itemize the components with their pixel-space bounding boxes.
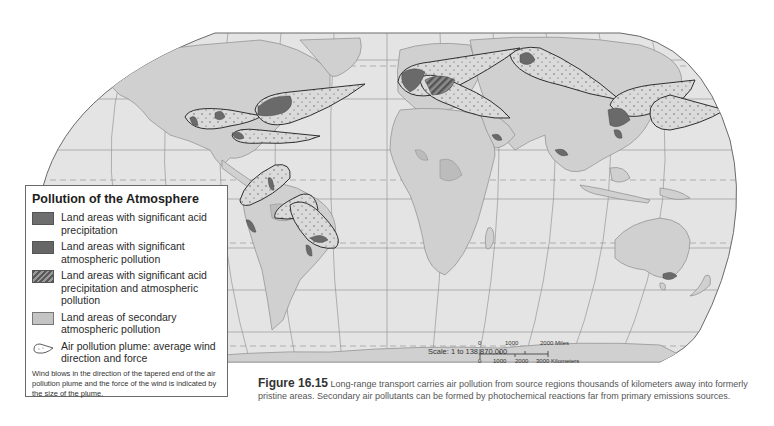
atmospheric-pollution-swatch-icon [32, 241, 54, 254]
legend-item-secondary-pollution: Land areas of secondary atmospheric poll… [32, 311, 221, 336]
scale-km-1000: 1000 [493, 358, 506, 364]
legend-title: Pollution of the Atmosphere [32, 192, 221, 206]
legend-item-acid-precipitation: Land areas with significant acid precipi… [32, 211, 221, 236]
plume-icon [32, 341, 54, 354]
legend-item-acid-and-atmospheric: Land areas with significant acid precipi… [32, 269, 221, 307]
acid-precipitation-swatch-icon [32, 212, 54, 225]
scale-miles-2000: 2000 Miles [540, 340, 569, 346]
map-legend: Pollution of the Atmosphere Land areas w… [25, 185, 228, 397]
secondary-pollution-swatch-icon [32, 312, 54, 325]
figure-caption: Figure 16.15 Long-range transport carrie… [258, 378, 758, 402]
scale-label: Scale: 1 to 138,870,000 [428, 347, 507, 356]
scale-km-2000: 2000 [515, 358, 528, 364]
scale-miles-1000: 1000 [505, 340, 518, 346]
caption-text: Long-range transport carries air polluti… [258, 379, 748, 401]
hatched-swatch-icon [32, 270, 54, 283]
scale-miles-0: 0 [478, 340, 481, 346]
legend-item-atmospheric-pollution: Land areas with significant atmospheric … [32, 240, 221, 265]
legend-item-plume: Air pollution plume: average wind direct… [32, 340, 221, 365]
figure-number: Figure 16.15 [258, 376, 328, 390]
scale-km-0: 0 [478, 358, 481, 364]
scale-km-3000: 3000 Kilometers [536, 358, 579, 364]
legend-note: Wind blows in the direction of the taper… [32, 369, 221, 399]
